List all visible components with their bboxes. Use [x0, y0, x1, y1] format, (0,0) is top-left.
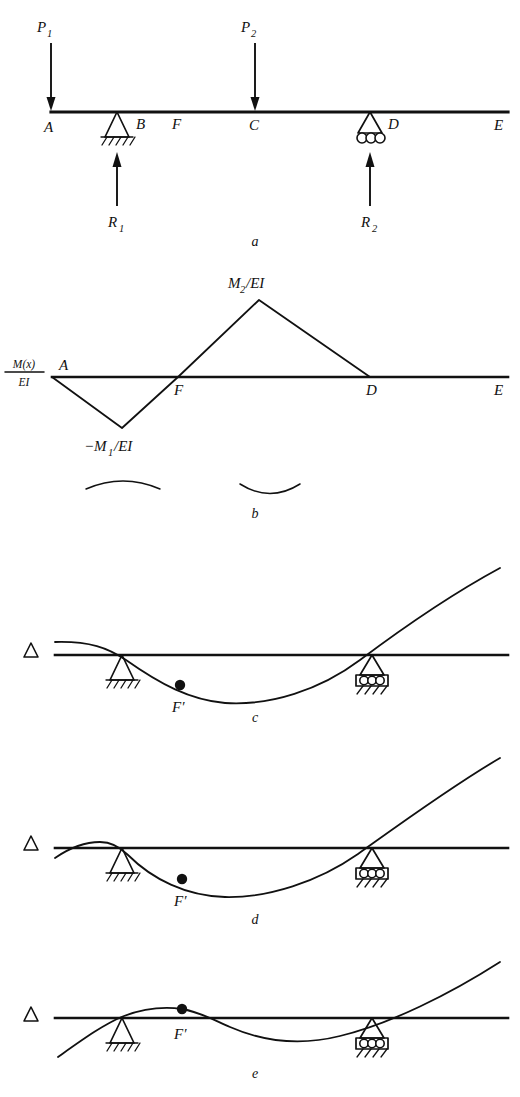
- moment-positive-triangle: [178, 300, 370, 377]
- beam-diagram-figure: P 1 P 2: [0, 0, 520, 1097]
- deflection-curve-d: [55, 758, 500, 897]
- moment-peak-suffix: /EI: [245, 275, 265, 291]
- curvature-arc-hogging: [86, 481, 160, 489]
- reaction-arrow-r1: [113, 152, 122, 206]
- deflection-curve-c: [55, 568, 500, 703]
- moment-node-label-a: A: [58, 357, 69, 373]
- delta-symbol-d: [24, 836, 38, 850]
- load-arrow-p1: [47, 43, 56, 111]
- inflection-point-e: [177, 1004, 187, 1014]
- inflection-point-c: [175, 680, 185, 690]
- load-arrow-p2: [251, 43, 260, 111]
- inflection-label-e: F′: [173, 1026, 187, 1042]
- moment-trough-label: −M 1 /EI: [84, 438, 133, 458]
- moment-node-label-e: E: [493, 382, 503, 398]
- panel-d: F′ d: [24, 758, 508, 927]
- moment-peak-label: M 2 /EI: [227, 275, 265, 295]
- moment-axis-denominator: EI: [18, 376, 31, 388]
- reaction-label-r1-sub: 1: [119, 223, 124, 234]
- moment-trough-sub: 1: [108, 447, 113, 458]
- curvature-arc-sagging: [240, 484, 300, 494]
- moment-node-label-d: D: [365, 382, 377, 398]
- delta-symbol-e: [24, 1007, 38, 1021]
- moment-trough-base: −M: [84, 438, 108, 454]
- inflection-label-c: F′: [171, 699, 185, 715]
- roller-support-d-panel: [356, 848, 388, 887]
- node-label-d: D: [387, 116, 399, 132]
- inflection-label-d: F′: [173, 893, 187, 909]
- roller-support-d: [357, 112, 385, 143]
- panel-e: F′ e: [24, 962, 508, 1081]
- roller-support-e: [356, 1018, 388, 1057]
- pin-support-b: [101, 112, 135, 145]
- panel-c: F′ c: [24, 568, 508, 725]
- inflection-point-d: [177, 874, 187, 884]
- panel-letter-e: e: [252, 1066, 258, 1081]
- panel-letter-c: c: [252, 710, 259, 725]
- moment-negative-triangle: [52, 377, 178, 428]
- moment-trough-suffix: /EI: [113, 438, 133, 454]
- reaction-label-r2-sub: 2: [372, 223, 378, 234]
- reaction-label-r2-base: R: [360, 214, 370, 230]
- delta-symbol-c: [24, 643, 38, 657]
- load-label-p1-sub: 1: [47, 28, 52, 39]
- node-label-f: F: [171, 116, 182, 132]
- moment-node-label-f: F: [173, 382, 184, 398]
- node-label-c: C: [249, 117, 260, 133]
- node-label-e: E: [493, 117, 503, 133]
- roller-support-c: [356, 655, 388, 694]
- load-label-p1-base: P: [36, 19, 46, 35]
- node-label-b: B: [136, 116, 145, 132]
- panel-letter-d: d: [252, 912, 260, 927]
- panel-letter-a: a: [252, 234, 259, 249]
- node-label-a: A: [43, 119, 54, 135]
- panel-letter-b: b: [252, 506, 259, 521]
- load-label-p2-base: P: [240, 19, 250, 35]
- pin-support-c: [106, 655, 140, 688]
- pin-support-d: [106, 848, 140, 881]
- panel-a: P 1 P 2: [36, 19, 508, 249]
- moment-axis-numerator: M(x): [12, 358, 36, 371]
- reaction-label-r1-base: R: [107, 214, 117, 230]
- reaction-arrow-r2: [366, 152, 375, 206]
- moment-axis-label: M(x) EI: [5, 358, 44, 388]
- load-label-p2-sub: 2: [251, 28, 257, 39]
- panel-b: M(x) EI M 2 /EI −M 1 /EI A F D E b: [5, 275, 508, 521]
